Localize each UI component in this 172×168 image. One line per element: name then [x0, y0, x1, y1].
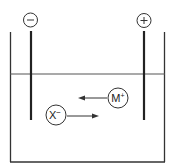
diagram-svg: M+ X−	[0, 0, 172, 168]
cation-m-plus: M+	[78, 88, 128, 108]
container	[10, 32, 165, 162]
electrolysis-diagram: M+ X−	[0, 0, 172, 168]
anion-x-minus: X−	[46, 105, 99, 125]
positive-electrode	[137, 14, 151, 121]
negative-electrode	[24, 13, 38, 120]
